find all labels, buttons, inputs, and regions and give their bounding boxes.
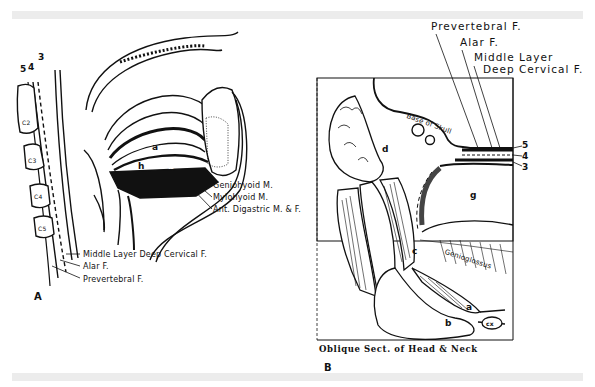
label-ant-digastric: Ant. Digastric M. & F. — [213, 205, 301, 214]
region-b-label-b: b — [445, 318, 451, 328]
region-a-label-b: a — [466, 302, 472, 312]
label-mylohyoid: Mylohyoid M. — [213, 193, 268, 202]
label-deep-cervical-b: Deep Cervical F. — [483, 63, 583, 75]
label-alar-a: Alar F. — [83, 262, 109, 271]
layer-number-5-b: 5 — [522, 140, 528, 150]
figure-caption-b: Oblique Sect. of Head & Neck — [319, 345, 478, 354]
layer-number-5-a: 5 — [20, 64, 26, 74]
panel-b-label: B — [324, 362, 332, 373]
vertebra-c4: C4 — [34, 192, 42, 201]
region-b-label: b — [168, 161, 174, 171]
label-middle-layer-deep-cervical-a: Middle Layer Deep Cervical F. — [83, 250, 207, 259]
layer-number-4-a: 4 — [28, 62, 34, 72]
region-c-label: c — [412, 246, 417, 256]
region-a-label: a — [152, 142, 158, 152]
region-h-label: h — [138, 161, 144, 171]
label-alar-b: Alar F. — [460, 36, 499, 48]
region-g-label: g — [470, 190, 476, 200]
region-d-label: d — [382, 144, 388, 154]
label-cx: cx — [486, 319, 494, 328]
vertebra-c5: C5 — [38, 224, 46, 233]
vertebra-c3: C3 — [28, 156, 36, 165]
vertebra-c2: C2 — [22, 118, 30, 127]
label-prevertebral-a: Prevertebral F. — [83, 275, 144, 284]
label-middle-layer-b: Middle Layer — [474, 51, 553, 63]
panel-a-label: A — [34, 291, 42, 302]
label-prevertebral-b: Prevertebral F. — [431, 20, 522, 32]
label-geniohyoid: Geniohyoid M. — [213, 181, 273, 190]
layer-number-3-b: 3 — [522, 162, 528, 172]
layer-number-3-a: 3 — [38, 52, 44, 62]
layer-number-4-b: 4 — [522, 151, 528, 161]
